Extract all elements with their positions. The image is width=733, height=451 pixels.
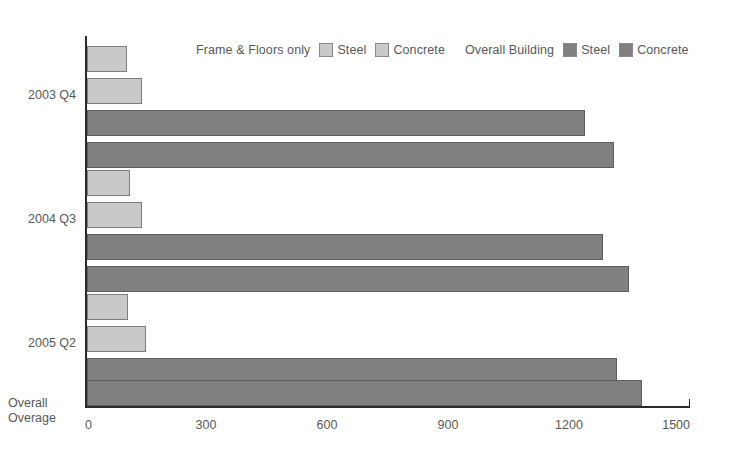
y-axis-title-line-1: Overall: [8, 396, 78, 411]
plot-area: 0 300 600 900 1200 1500: [85, 36, 690, 408]
bar-2005q2-frame-concrete[interactable]: [87, 326, 146, 352]
x-axis-line: [85, 406, 690, 408]
y-axis-title-line-2: Overage: [8, 411, 78, 426]
x-tick-0: [85, 399, 86, 408]
bar-2004q3-overall-steel[interactable]: [87, 234, 603, 260]
category-label-2004-q3: 2004 Q3: [28, 212, 76, 226]
y-axis-title: Overall Overage: [8, 396, 78, 426]
bar-2003q4-frame-concrete[interactable]: [87, 78, 142, 104]
category-label-2005-q2: 2005 Q2: [28, 336, 76, 350]
bar-2004q3-frame-steel[interactable]: [87, 170, 130, 196]
x-tick-label-300: 300: [196, 418, 217, 432]
x-tick-label-0: 0: [85, 418, 92, 432]
bar-2004q3-frame-concrete[interactable]: [87, 202, 142, 228]
bar-2003q4-overall-steel[interactable]: [87, 110, 585, 136]
x-tick-label-1500: 1500: [662, 418, 690, 432]
bar-2003q4-overall-concrete[interactable]: [87, 142, 614, 168]
bar-2003q4-frame-steel[interactable]: [87, 46, 127, 72]
x-tick-label-900: 900: [438, 418, 459, 432]
bar-2005q2-overall-concrete[interactable]: [87, 380, 642, 406]
category-label-2003-q4: 2003 Q4: [28, 88, 76, 102]
bar-2004q3-overall-concrete[interactable]: [87, 266, 629, 292]
category-axis: 2003 Q4 2004 Q3 2005 Q2: [0, 36, 76, 408]
bar-2005q2-frame-steel[interactable]: [87, 294, 128, 320]
x-tick-1500: [689, 399, 690, 408]
bar-chart: Frame & Floors only Steel Concrete Overa…: [0, 0, 733, 451]
x-tick-label-600: 600: [317, 418, 338, 432]
x-tick-label-1200: 1200: [555, 418, 583, 432]
